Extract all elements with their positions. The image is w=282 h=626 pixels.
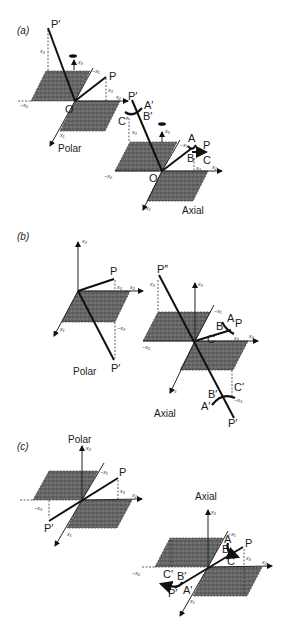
axis-label: −x₁ — [180, 142, 188, 148]
axis-label: x₃ — [245, 555, 252, 561]
axis-label: C — [207, 333, 215, 345]
axis-label: A′ — [183, 584, 192, 596]
axis-label: −x₂ — [104, 173, 113, 179]
axis-label: x₃ — [131, 129, 138, 135]
axis-label: x₂ — [131, 492, 138, 498]
plane-lower — [180, 341, 248, 370]
axis-label: x₂ — [261, 559, 268, 565]
axis-label: −x₂ — [20, 102, 29, 108]
rotation-arc — [188, 145, 196, 149]
axis-label: x₃ — [195, 165, 202, 171]
axis-label: x₃ — [233, 335, 240, 341]
label-p: P — [235, 317, 242, 329]
label-p-prime: P′ — [128, 90, 137, 102]
axis-label: x₃ — [149, 281, 156, 287]
axis-label: x₃ — [116, 284, 123, 290]
vector-p — [78, 279, 114, 291]
axis-label: x₃ — [77, 59, 84, 65]
rotation-arc-prime — [161, 582, 182, 587]
axis-label: −x₃ — [117, 325, 126, 331]
axis-label: −x₁ — [228, 531, 236, 537]
label-p: P — [109, 70, 116, 82]
axis-label: A′ — [201, 400, 210, 412]
panel-b-label: (b) — [17, 231, 29, 242]
panel-b-axial: P″ A B P C B′ A′ C′ P′ Axial x₃ x₃ x₃ x₂… — [142, 263, 258, 429]
axis-label: x₂ — [115, 94, 122, 100]
label-p-prime: P′ — [228, 417, 237, 429]
axis-label: −x₁ — [100, 469, 108, 475]
label-origin: O — [65, 103, 74, 115]
panel-b: (b) P P′ Polar x₃ x₃ x₂ −x₃ x₁ — [17, 231, 258, 429]
label-p: P — [203, 139, 210, 151]
axis-label: x₁ — [189, 598, 195, 604]
axis-label: B — [216, 320, 223, 332]
label-p-prime: P′ — [44, 522, 53, 534]
axis-label: B — [222, 543, 229, 555]
axis-label: x₁ — [59, 132, 65, 138]
axis-label: x₂ — [248, 333, 255, 339]
label-p-prime: P′ — [168, 587, 177, 599]
label-origin: O — [149, 172, 158, 184]
caption-axial-b: Axial — [154, 408, 176, 419]
rotation-arc-prime — [125, 108, 142, 114]
panel-b-polar: P P′ Polar x₃ x₃ x₂ −x₃ x₁ — [54, 238, 143, 377]
panel-a-label: (a) — [17, 25, 29, 36]
axis-label: A — [227, 312, 235, 324]
axis-label: −x₁ — [214, 308, 222, 314]
axis-label: −x₁ — [92, 68, 100, 74]
axis-label: x₁ — [66, 531, 72, 537]
axis-label: C′ — [234, 381, 244, 393]
plane-upper — [143, 312, 210, 341]
axis-x2 — [208, 566, 272, 567]
axis-label: A — [188, 132, 196, 144]
axis-label: C — [203, 154, 211, 166]
rotation-symbol-icon — [69, 54, 77, 58]
label-p: P — [119, 466, 126, 478]
panel-c-label: (c) — [17, 441, 29, 452]
panel-a-polar: P′ P O Polar x₃ x₃ x₃ x₂ −x₁ −x₂ x₁ — [18, 18, 128, 154]
panel-c-axial: Axial A B P C C′ B′ A′ P′ x₃ x₃ x₂ −x₁ — [132, 491, 272, 616]
axis-label: x₁ — [145, 205, 151, 211]
label-p-prime: P′ — [111, 362, 120, 374]
axis-label: x₃ — [197, 281, 204, 287]
panel-a: (a) P′ P O Polar x₃ x₃ x₃ x₂ −x₁ −x₂ x₁ — [17, 18, 222, 216]
caption-polar-a: Polar — [58, 143, 82, 154]
axis-label: x₃ — [164, 128, 171, 134]
caption-axial-a: Axial — [182, 205, 204, 216]
axis-label: C′ — [163, 568, 173, 580]
plane-lower — [62, 291, 130, 322]
plane-upper — [155, 538, 223, 567]
label-p: P — [245, 537, 252, 549]
axis-label: B′ — [143, 110, 152, 122]
panel-c-polar: Polar P P′ x₃ x₃ x₂ −x₁ −x₃ x₁ — [20, 434, 142, 546]
axis-label: C′ — [118, 115, 128, 127]
axis-label: B′ — [208, 388, 217, 400]
axis-label: x₁ — [59, 326, 65, 332]
axis-label: −x₂ — [142, 344, 151, 350]
label-p-prime: P′ — [51, 18, 60, 30]
rotation-symbol-icon — [158, 122, 166, 126]
symmetry-figure: (a) P′ P O Polar x₃ x₃ x₃ x₂ −x₁ −x₂ x₁ — [0, 0, 282, 626]
axis-label: x₃ — [210, 509, 217, 515]
label-p-double-prime: P″ — [157, 263, 168, 275]
axis-label: C — [227, 555, 235, 567]
axis-label: x₃ — [39, 48, 46, 54]
panel-a-axial: P′ A′ B′ C′ A B P C O Axial x₃ x₃ x₃ x₂ … — [104, 90, 222, 216]
axis-label: x₃ — [107, 87, 114, 93]
axis-x2 — [82, 499, 142, 500]
label-p: P — [110, 265, 117, 277]
caption-polar-c: Polar — [68, 434, 92, 445]
axis-label: B′ — [177, 570, 186, 582]
axis-label: −x₂ — [132, 570, 141, 576]
axis-label: −x₃ — [234, 397, 243, 403]
axis-label: x₃ — [81, 238, 88, 244]
panel-c: (c) Polar P P′ x₃ x₃ x₂ −x₁ −x₃ x₁ Axial — [17, 434, 272, 616]
caption-polar-b: Polar — [73, 366, 97, 377]
axis-label: x₂ — [129, 284, 136, 290]
axis-label: x₁ — [171, 387, 177, 393]
axis-label: x₂ — [211, 164, 218, 170]
axis-label: −x₃ — [34, 505, 43, 511]
caption-axial-c: Axial — [195, 491, 217, 502]
axis-label: x₃ — [119, 488, 126, 494]
axis-label: B — [187, 152, 194, 164]
